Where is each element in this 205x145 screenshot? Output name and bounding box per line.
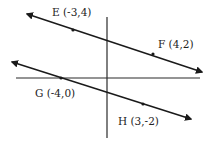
point-dot bbox=[151, 52, 154, 55]
coordinate-diagram: E (-3,4)F (4,2)G (-4,0)H (3,-2) bbox=[0, 0, 205, 145]
point-label: G (-4,0) bbox=[35, 87, 75, 99]
point-label: F (4,2) bbox=[158, 38, 194, 50]
point-dot bbox=[59, 76, 62, 79]
point-dot bbox=[141, 102, 144, 105]
point-label: H (3,-2) bbox=[118, 115, 159, 127]
point-dot bbox=[71, 28, 74, 31]
point-label: E (-3,4) bbox=[52, 6, 91, 18]
axes bbox=[16, 17, 200, 138]
